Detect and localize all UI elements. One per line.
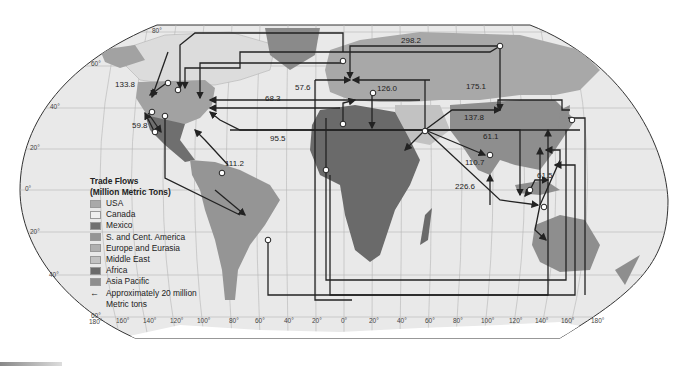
lon-label: 160° <box>116 317 130 324</box>
legend-label: Asia Pacific <box>106 276 149 287</box>
swatch <box>90 278 101 286</box>
lon-label: 180° <box>89 318 103 325</box>
flow-label: 57.6 <box>295 83 311 92</box>
lon-label: 20° <box>369 317 379 324</box>
swatch <box>90 211 101 219</box>
legend-item-asia-pacific: Asia Pacific <box>90 276 197 287</box>
flow-label: 111.2 <box>225 159 244 168</box>
lat-label: 20° <box>30 228 40 235</box>
arrow-left-icon: ← <box>90 288 106 299</box>
legend-label: Metric tons <box>106 299 147 310</box>
lat-label: 60° <box>91 60 101 67</box>
lon-label: 160° <box>561 317 575 324</box>
legend-label: Middle East <box>106 254 150 265</box>
legend-label: Approximately 20 million <box>106 288 197 299</box>
lon-label: 100° <box>197 317 211 324</box>
lon-label: 120° <box>170 317 184 324</box>
swatch <box>90 200 101 208</box>
legend-label: Europe and Eurasia <box>106 243 180 254</box>
lat-label: 0° <box>25 185 32 192</box>
legend-item-mexico: Mexico <box>90 220 197 231</box>
flow-label: 137.8 <box>464 113 485 122</box>
lon-label: 80° <box>453 317 463 324</box>
legend-item-usa: USA <box>90 198 197 209</box>
flow-label: 68.3 <box>265 94 281 103</box>
legend-subtitle: (Million Metric Tons) <box>90 187 197 198</box>
lon-label: 80° <box>229 317 239 324</box>
legend-item-europe-eurasia: Europe and Eurasia <box>90 243 197 254</box>
lon-label: 180° <box>591 317 605 324</box>
flow-label: 61.1 <box>483 132 499 141</box>
lat-label: 40° <box>49 271 59 278</box>
lon-label: 0° <box>341 317 348 324</box>
flow-label: 175.1 <box>466 82 487 91</box>
swatch <box>90 256 101 264</box>
lat-label: 80° <box>152 27 162 34</box>
lon-label: 60° <box>255 317 265 324</box>
flow-label: 95.5 <box>270 134 286 143</box>
lat-label: 40° <box>50 103 60 110</box>
lon-label: 40° <box>284 317 294 324</box>
lon-label: 140° <box>535 317 549 324</box>
lat-label: 20° <box>30 144 40 151</box>
legend-item-middle-east: Middle East <box>90 254 197 265</box>
legend-item-s-cent-america: S. and Cent. America <box>90 232 197 243</box>
swatch <box>90 267 101 275</box>
legend-title: Trade Flows <box>90 176 197 187</box>
legend-label: Mexico <box>106 220 133 231</box>
swatch <box>90 233 101 241</box>
legend-label: Canada <box>106 209 135 220</box>
legend-label: USA <box>106 198 123 209</box>
lon-label: 140° <box>143 317 157 324</box>
flow-label: 126.0 <box>377 84 398 93</box>
map-legend: Trade Flows (Million Metric Tons) USA Ca… <box>90 176 197 310</box>
lon-label: 40° <box>397 317 407 324</box>
legend-item-canada: Canada <box>90 209 197 220</box>
lon-label: 100° <box>481 317 495 324</box>
flow-label: 133.8 <box>115 80 136 89</box>
flow-label: 61.5 <box>537 171 553 180</box>
swatch <box>90 222 101 230</box>
legend-item-arrow: ←Approximately 20 million <box>90 288 197 299</box>
legend-label: Africa <box>106 265 127 276</box>
lon-label: 120° <box>509 317 523 324</box>
legend-label: S. and Cent. America <box>106 232 185 243</box>
flow-label: 59.8 <box>132 121 148 130</box>
legend-item-arrow-cont: Metric tons <box>90 299 197 310</box>
legend-item-africa: Africa <box>90 265 197 276</box>
lon-label: 20° <box>312 317 322 324</box>
swatch <box>90 244 101 252</box>
flow-label: 226.6 <box>455 182 476 191</box>
decorative-bar <box>0 362 62 366</box>
lon-label: 60° <box>425 317 435 324</box>
flow-label: 298.2 <box>401 36 422 45</box>
flow-label: 110.7 <box>465 158 485 167</box>
